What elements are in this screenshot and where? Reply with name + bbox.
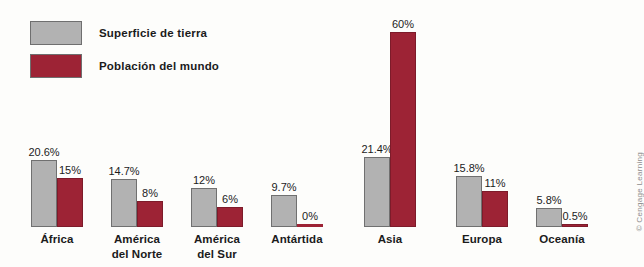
bar-group: 20.6%15% xyxy=(31,0,83,227)
bar-world-population xyxy=(562,224,588,227)
bar-value-label: 0% xyxy=(302,210,318,222)
bar-group: 15.8%11% xyxy=(456,0,508,227)
bar-value-label: 14.7% xyxy=(108,165,139,177)
bar-land-area xyxy=(31,160,57,227)
bar-value-label: 9.7% xyxy=(271,181,296,193)
bar-value-label: 0.5% xyxy=(562,210,587,222)
bar-land-area xyxy=(364,157,390,227)
category-label-line: Asia xyxy=(340,232,440,247)
bar-group: 9.7%0% xyxy=(271,0,323,227)
bar-world-population xyxy=(137,201,163,227)
bar-value-label: 6% xyxy=(222,193,238,205)
bar-value-label: 15% xyxy=(59,164,81,176)
bar-value-label: 15.8% xyxy=(453,162,484,174)
bar-value-label: 11% xyxy=(484,177,505,189)
bar-land-area xyxy=(111,179,137,227)
bar-land-area xyxy=(191,188,217,227)
bar-value-label: 60% xyxy=(392,18,414,30)
bar-land-area xyxy=(536,208,562,227)
category-label-line: del Sur xyxy=(167,247,267,262)
bar-group: 12%6% xyxy=(191,0,243,227)
category-label: Oceanía xyxy=(512,232,612,247)
bar-group: 5.8%0.5% xyxy=(536,0,588,227)
bar-world-population xyxy=(297,224,323,227)
plot-area: 20.6%15%14.7%8%12%6%9.7%0%21.4%60%15.8%1… xyxy=(0,0,600,227)
category-label: Antártida xyxy=(247,232,347,247)
category-label-line: Oceanía xyxy=(512,232,612,247)
bar-value-label: 8% xyxy=(142,187,158,199)
bar-value-label: 21.4% xyxy=(361,143,392,155)
bar-world-population xyxy=(57,178,83,227)
bar-land-area xyxy=(271,195,297,227)
bar-group: 21.4%60% xyxy=(364,0,416,227)
category-label: Asia xyxy=(340,232,440,247)
bar-world-population xyxy=(390,32,416,227)
bar-value-label: 12% xyxy=(193,174,215,186)
bar-group: 14.7%8% xyxy=(111,0,163,227)
bar-value-label: 20.6% xyxy=(28,146,59,158)
bar-world-population xyxy=(217,207,243,227)
copyright-credit: © Cengage Learning xyxy=(635,152,644,231)
category-label-line: Antártida xyxy=(247,232,347,247)
bar-world-population xyxy=(482,191,508,227)
bar-value-label: 5.8% xyxy=(536,194,561,206)
bar-land-area xyxy=(456,176,482,227)
